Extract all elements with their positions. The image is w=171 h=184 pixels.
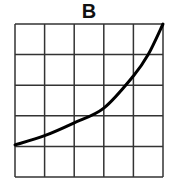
grid (15, 24, 163, 177)
plot-area (0, 0, 171, 184)
data-curve (15, 24, 163, 145)
